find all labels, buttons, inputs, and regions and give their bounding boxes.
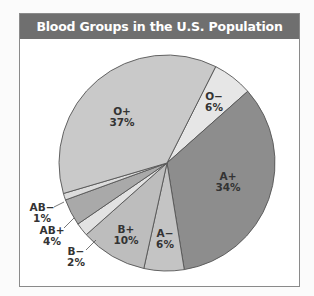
slice-label: AB−1%	[30, 201, 55, 224]
leader-line	[86, 240, 96, 250]
slice-label: AB+4%	[40, 224, 65, 247]
leader-line	[54, 202, 64, 207]
leader-line	[64, 218, 74, 228]
slice-label: B−2%	[67, 245, 85, 268]
pie-chart: O−6%A+34%A−6%B+10%B−2%AB+4%AB−1%O+37%	[0, 0, 314, 296]
slice-label: A−6%	[156, 227, 174, 250]
slice-label: O−6%	[205, 90, 223, 113]
